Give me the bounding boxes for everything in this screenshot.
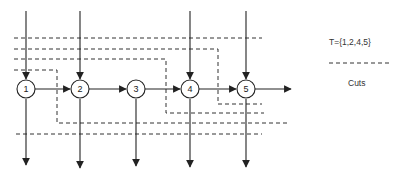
node-3: 3: [127, 80, 145, 98]
node-2: 2: [71, 80, 89, 98]
node-4: 4: [181, 80, 199, 98]
legend-set-label: T={1,2,4,5}: [329, 37, 371, 47]
node-label: 1: [23, 84, 28, 94]
legend-cuts-label: Cuts: [348, 78, 365, 88]
node-label: 4: [187, 84, 192, 94]
node-label: 5: [243, 84, 248, 94]
cut-diagram: 1 2 3 4 5: [0, 0, 404, 178]
node-label: 3: [133, 84, 138, 94]
node-5: 5: [237, 80, 255, 98]
node-1: 1: [17, 80, 35, 98]
node-label: 2: [77, 84, 82, 94]
input-arrows: [26, 11, 246, 79]
